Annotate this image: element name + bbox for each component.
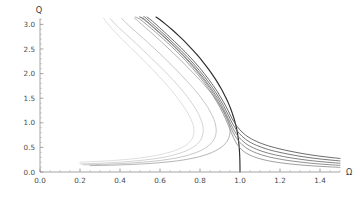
x-tick-label: 0.6 — [154, 176, 166, 185]
y-axis-ticks — [40, 19, 43, 172]
x-tick-label: 0.8 — [194, 176, 206, 185]
axes-layer: 0.00.20.40.60.81.01.21.4 0.00.51.01.52.0… — [24, 18, 340, 184]
chart-curve — [83, 18, 216, 165]
y-tick-label: 3.0 — [24, 20, 36, 29]
curves-layer — [80, 17, 340, 172]
y-tick-label: 1.0 — [24, 118, 36, 127]
chart-canvas: 0.00.20.40.60.81.01.21.4 0.00.51.01.52.0… — [0, 0, 360, 202]
x-tick-label: 1.4 — [314, 176, 326, 185]
y-tick-label: 1.5 — [24, 94, 35, 103]
x-tick-label: 0.2 — [74, 176, 85, 185]
y-tick-label: 2.5 — [24, 45, 35, 54]
x-tick-label: 1.2 — [274, 176, 285, 185]
x-axis-title: Ω — [346, 167, 352, 177]
x-tick-label: 0.4 — [114, 176, 126, 185]
resonance-response-figure: 0.00.20.40.60.81.01.21.4 0.00.51.01.52.0… — [0, 0, 360, 202]
y-tick-label: 2.0 — [24, 69, 36, 78]
chart-curve — [80, 18, 194, 162]
y-tick-label: 0.0 — [24, 168, 36, 177]
x-axis-tick-labels: 0.00.20.40.60.81.01.21.4 — [34, 176, 326, 185]
chart-curve — [90, 18, 230, 166]
y-axis-tick-labels: 0.00.51.01.52.02.53.0 — [24, 20, 36, 177]
y-axis-title: Q — [36, 5, 42, 15]
x-tick-label: 0.0 — [34, 176, 46, 185]
chart-curve — [144, 17, 340, 161]
chart-curve — [140, 17, 340, 163]
chart-curve — [80, 18, 203, 163]
y-tick-label: 0.5 — [24, 143, 35, 152]
x-tick-label: 1.0 — [234, 176, 246, 185]
x-axis-ticks — [40, 169, 340, 172]
